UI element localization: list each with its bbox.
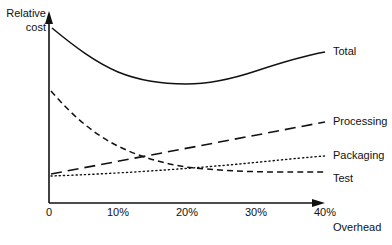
x-axis-label: Overhead xyxy=(333,221,381,234)
x-tick-40: 40% xyxy=(305,206,345,218)
series-label-total: Total xyxy=(333,45,356,57)
x-tick-20: 20% xyxy=(167,206,207,218)
series-line-processing xyxy=(51,122,325,174)
x-tick-0: 0 xyxy=(39,206,59,218)
series-label-test: Test xyxy=(333,172,353,184)
y-axis-label: Relative cost xyxy=(4,6,46,34)
x-tick-30: 30% xyxy=(236,206,276,218)
series-line-test xyxy=(51,91,325,172)
y-axis-label-line2: cost xyxy=(4,20,46,34)
y-axis-label-line1: Relative xyxy=(4,6,46,20)
x-tick-10: 10% xyxy=(98,206,138,218)
series-label-processing: Processing xyxy=(333,115,387,127)
series-label-packaging: Packaging xyxy=(333,149,384,161)
chart-figure: Relative cost 0 10% 20% 30% 40% Overhead… xyxy=(0,0,392,245)
series-line-total xyxy=(52,28,325,84)
